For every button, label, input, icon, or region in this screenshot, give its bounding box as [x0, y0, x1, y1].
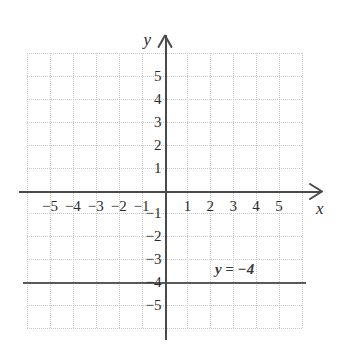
y-tick-label: −5 — [140, 298, 162, 313]
y-tick-label: 5 — [140, 69, 162, 84]
y-tick-label: −1 — [140, 206, 162, 221]
y-tick-label: −2 — [140, 229, 162, 244]
y-axis — [165, 35, 167, 340]
y-tick-label: −3 — [140, 252, 162, 267]
x-axis-label: x — [316, 200, 324, 217]
y-axis-arrowhead — [157, 34, 173, 49]
y-axis-label: y — [144, 31, 152, 48]
x-tick-label: 5 — [266, 199, 292, 214]
coordinate-plane-chart: xy−5−4−3−2−11234554321−1−2−3−4−5y = −4 — [0, 0, 340, 350]
y-tick-label: 4 — [140, 92, 162, 107]
y-tick-label: 3 — [140, 115, 162, 130]
y-tick-label: −4 — [140, 275, 162, 290]
function-equation-label: y = −4 — [215, 262, 254, 277]
y-tick-label: 2 — [140, 138, 162, 153]
y-tick-label: 1 — [140, 161, 162, 176]
x-axis-arrowhead — [309, 183, 324, 200]
x-axis — [19, 191, 322, 193]
